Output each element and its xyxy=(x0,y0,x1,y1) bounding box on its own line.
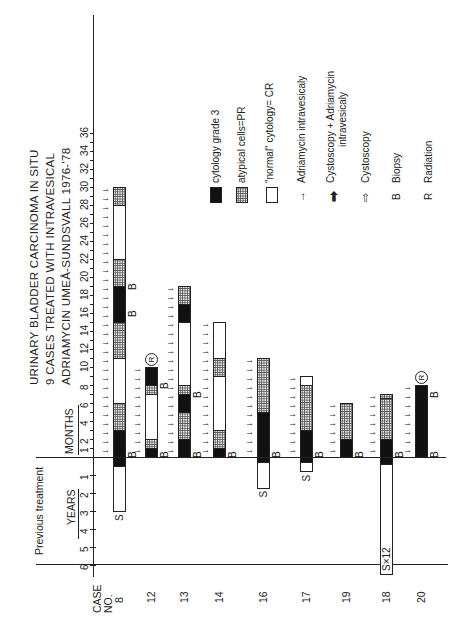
month-tick-label: 12 xyxy=(79,343,90,354)
adriamycin-arrow-icon: ↓ xyxy=(403,440,412,445)
month-tick xyxy=(90,223,94,224)
case-number-label: 14 xyxy=(214,591,225,603)
adriamycin-arrow-icon: ↓ xyxy=(166,296,175,301)
month-tick xyxy=(90,160,94,161)
adriamycin-arrow-icon: ↓ xyxy=(101,431,110,436)
month-tick xyxy=(90,286,94,287)
case-label: CASE NO. xyxy=(92,584,114,613)
adriamycin-arrow-icon: ↓ xyxy=(101,404,110,409)
month-tick xyxy=(90,349,94,350)
adriamycin-arrow-icon: ↓ xyxy=(101,188,110,193)
month-tick xyxy=(90,142,94,143)
adriamycin-arrow-icon: ↓ xyxy=(368,413,377,418)
adriamycin-arrow-icon: ↓ xyxy=(166,359,175,364)
adriamycin-arrow-icon: ↓ xyxy=(288,395,297,400)
adriamycin-arrow-icon: ↓ xyxy=(166,422,175,427)
adriamycin-arrow-icon: ↓ xyxy=(101,233,110,238)
bar-segment-dotted xyxy=(300,385,313,431)
previous-white-segment xyxy=(113,466,126,512)
adriamycin-arrow-icon: ↓ xyxy=(166,314,175,319)
month-tick xyxy=(90,439,94,440)
month-tick xyxy=(90,268,94,269)
adriamycin-arrow-icon: ↓ xyxy=(403,413,412,418)
legend-hollow-arrow-label: Cystoscopy xyxy=(360,131,371,183)
adriamycin-arrow-icon: ↓ xyxy=(288,431,297,436)
bar-segment-dotted xyxy=(113,187,126,206)
case-number-label: 19 xyxy=(341,591,352,603)
adriamycin-arrow-icon: ↓ xyxy=(166,413,175,418)
year-tick xyxy=(90,565,96,566)
previous-white-segment xyxy=(300,462,313,472)
adriamycin-arrow-icon: ↓ xyxy=(166,368,175,373)
adriamycin-arrow-icon: ↓ xyxy=(101,269,110,274)
biopsy-marker: B xyxy=(315,451,325,458)
adriamycin-arrow-icon: ↓ xyxy=(288,413,297,418)
thin-arrow-icon: → xyxy=(296,191,307,202)
month-tick-label: 30 xyxy=(79,181,90,192)
month-tick xyxy=(90,232,94,233)
adriamycin-arrow-icon: ↓ xyxy=(201,359,210,364)
adriamycin-arrow-icon: ↓ xyxy=(101,377,110,382)
bar-segment-dotted xyxy=(380,399,393,441)
bar-segment-dotted xyxy=(178,286,191,305)
bar-segment-white xyxy=(113,205,126,260)
bar-segment-black xyxy=(380,439,393,458)
bar-segment-dotted xyxy=(113,322,126,359)
biopsy-marker: B xyxy=(430,451,440,458)
adriamycin-arrow-icon: ↓ xyxy=(328,413,337,418)
bar-segment-white xyxy=(113,358,126,404)
month-tick xyxy=(90,331,94,332)
adriamycin-arrow-icon: ↓ xyxy=(328,431,337,436)
month-tick-label: 2 xyxy=(79,438,90,444)
adriamycin-arrow-icon: ↓ xyxy=(133,440,142,445)
bar-segment-black xyxy=(145,448,158,458)
adriamycin-arrow-icon: ↓ xyxy=(368,422,377,427)
bar-segment-dotted xyxy=(145,385,158,395)
title-line-2: 9 CASES TREATED WITH INTRAVESICAL xyxy=(43,153,58,385)
year-tick-label: 5 xyxy=(79,546,90,552)
biopsy-marker: B xyxy=(272,451,282,458)
bar-segment-dotted xyxy=(145,439,158,449)
adriamycin-arrow-icon: ↓ xyxy=(133,422,142,427)
year-tick xyxy=(90,547,96,548)
adriamycin-arrow-icon: ↓ xyxy=(101,296,110,301)
adriamycin-arrow-icon: ↓ xyxy=(245,440,254,445)
adriamycin-arrow-icon: ↓ xyxy=(328,404,337,409)
adriamycin-arrow-icon: ↓ xyxy=(101,314,110,319)
adriamycin-arrow-icon: ↓ xyxy=(368,395,377,400)
adriamycin-arrow-icon: ↓ xyxy=(328,422,337,427)
bar-segment-black xyxy=(145,367,158,386)
bar-segment-black xyxy=(113,286,126,323)
adriamycin-arrow-icon: ↓ xyxy=(201,341,210,346)
bar-segment-black xyxy=(415,385,428,458)
adriamycin-arrow-icon: ↓ xyxy=(166,350,175,355)
month-tick xyxy=(90,214,94,215)
bar-segment-dotted xyxy=(340,403,353,440)
month-tick-label: 4 xyxy=(79,420,90,426)
bar-segment-black xyxy=(178,304,191,323)
adriamycin-arrow-icon: ↓ xyxy=(101,206,110,211)
radiation-symbol: R xyxy=(423,193,434,200)
case-number-label: 13 xyxy=(179,591,190,603)
adriamycin-arrow-icon: ↓ xyxy=(201,440,210,445)
adriamycin-arrow-icon: ↓ xyxy=(133,395,142,400)
figure-rotated: URINARY BLADDER CARCINOMA IN SITU 9 CASE… xyxy=(0,0,469,617)
case-number-label: 8 xyxy=(114,597,125,603)
bar-segment-dotted xyxy=(213,358,226,377)
month-tick xyxy=(90,187,94,188)
adriamycin-arrow-icon: ↓ xyxy=(133,377,142,382)
adriamycin-arrow-icon: ↓ xyxy=(403,395,412,400)
month-tick xyxy=(90,448,94,449)
adriamycin-arrow-icon: ↓ xyxy=(166,305,175,310)
month-tick-label: 20 xyxy=(79,271,90,282)
year-tick-label: 3 xyxy=(79,510,90,516)
bar-segment-black xyxy=(340,439,353,458)
month-tick-label: 18 xyxy=(79,289,90,300)
adriamycin-arrow-icon: ↓ xyxy=(166,395,175,400)
case-number-label: 20 xyxy=(416,591,427,603)
adriamycin-arrow-icon: ↓ xyxy=(368,449,377,454)
month-tick xyxy=(90,313,94,314)
adriamycin-arrow-icon: ↓ xyxy=(403,422,412,427)
previous-treatment-label: Previous treatment xyxy=(34,467,45,555)
adriamycin-arrow-icon: ↓ xyxy=(201,332,210,337)
